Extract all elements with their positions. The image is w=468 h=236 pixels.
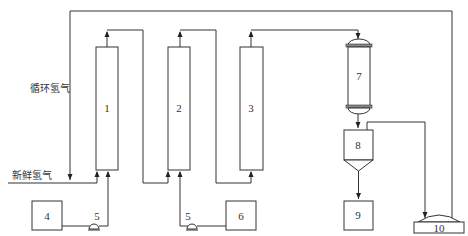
separator-8 xyxy=(344,130,373,171)
unit-label-4: 4 xyxy=(44,211,50,222)
unit-label-1: 1 xyxy=(104,103,110,114)
unit-label-5-left: 5 xyxy=(94,211,100,222)
unit-label-10: 10 xyxy=(434,223,445,234)
column-3-to-7-line xyxy=(251,30,358,39)
unit-label-3: 3 xyxy=(248,103,254,114)
diagram-canvas xyxy=(0,0,468,236)
unit-label-5-right: 5 xyxy=(185,211,191,222)
separator-8-to-10-line xyxy=(367,122,425,218)
unit-label-6: 6 xyxy=(238,211,244,222)
pump-5-left xyxy=(88,224,100,230)
unit-label-7: 7 xyxy=(356,71,362,82)
unit-label-2: 2 xyxy=(176,103,182,114)
process-flow-diagram: 循环氢气 新鲜氢气 1 2 3 4 5 5 6 7 8 9 10 xyxy=(0,0,468,236)
unit-label-9: 9 xyxy=(355,210,361,221)
recycle-hydrogen-label: 循环氢气 xyxy=(30,84,70,94)
fresh-hydrogen-label: 新鲜氢气 xyxy=(12,171,52,181)
pump-5-right xyxy=(186,224,198,230)
unit-label-8: 8 xyxy=(355,140,361,151)
pump-5-to-column-1-line xyxy=(99,172,108,226)
